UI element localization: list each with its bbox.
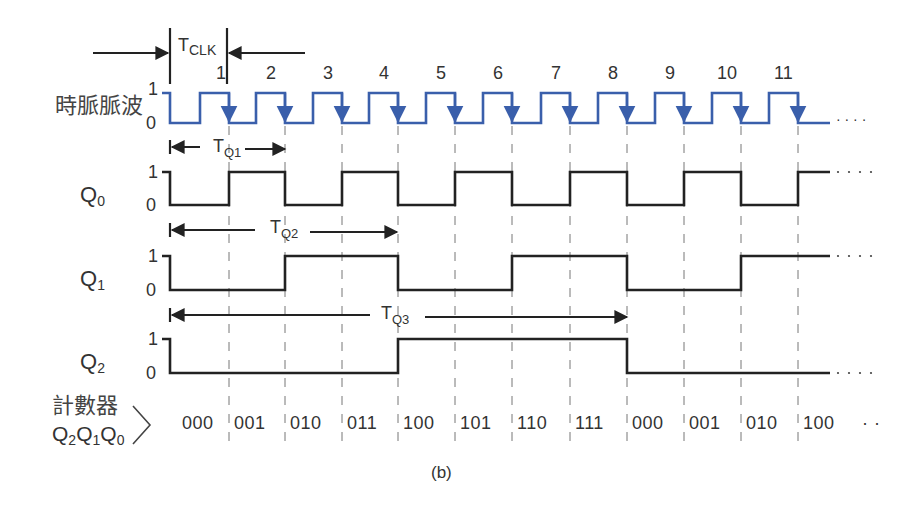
counter-state: 010 [746,414,778,432]
signal-waveforms [162,171,872,374]
clock-pulse-number: 3 [323,64,333,82]
clock-pulse-number: 11 [774,64,793,82]
clock-pulse-number: 5 [436,64,446,82]
signal-q1-label: Q1 [80,268,105,292]
signal-q1-waveform [162,256,830,290]
clock-level-low: 0 [146,114,156,132]
clock-pulse-number: 8 [608,64,618,82]
tq2-label: TQ2 [270,218,298,240]
counter-state: 010 [290,414,322,432]
signal-q2-waveform [162,339,830,373]
counter-state: 100 [803,414,835,432]
counter-state: 100 [403,414,435,432]
counter-state: 001 [234,414,266,432]
clock-pulse-number: 2 [266,64,276,82]
counter-state: 011 [347,414,377,432]
tclk-label: TCLK [178,36,216,57]
signal-q0-level-low: 0 [146,196,156,214]
counter-bits-label: Q2Q1Q0 [52,423,124,447]
counter-label: 計數器 [52,395,118,417]
signal-q1-level-high: 1 [148,247,158,265]
clock-continuation-dots: · · · · [836,112,866,126]
clock-signal-label: 時脈脈波 [55,95,143,117]
counter-chevron-icon [133,406,150,444]
counter-state: 101 [460,414,492,432]
signal-q2-label: Q2 [80,351,105,375]
counter-state: 110 [517,414,547,432]
dashed-edge-gridlines [229,126,798,445]
signal-q0-label: Q0 [80,184,105,208]
signal-q0-level-high: 1 [148,163,158,181]
counter-continuation-dots: · · [862,414,881,432]
clock-pulse-number: 9 [665,64,675,82]
period-arrows [93,28,627,322]
counter-state: 001 [689,414,721,432]
figure-caption: (b) [431,464,452,481]
tq1-label: TQ1 [213,137,241,159]
clock-pulse-number: 10 [717,64,737,82]
tq3-label: TQ3 [381,304,409,326]
clock-waveform [162,93,830,123]
counter-state: 000 [182,414,214,432]
clock-pulse-number: 6 [493,64,503,82]
signal-q2-level-high: 1 [148,330,158,348]
clock-level-high: 1 [148,80,158,98]
clock-pulse-number: 7 [551,64,561,82]
clock-pulse-number: 4 [379,64,389,82]
clock-pulse-number: 1 [216,64,226,82]
counter-state: 000 [632,414,664,432]
signal-q1-level-low: 0 [146,281,156,299]
timing-diagram [0,0,906,511]
signal-q0-waveform [162,172,830,205]
signal-q2-level-low: 0 [146,364,156,382]
counter-state: 111 [575,414,604,432]
